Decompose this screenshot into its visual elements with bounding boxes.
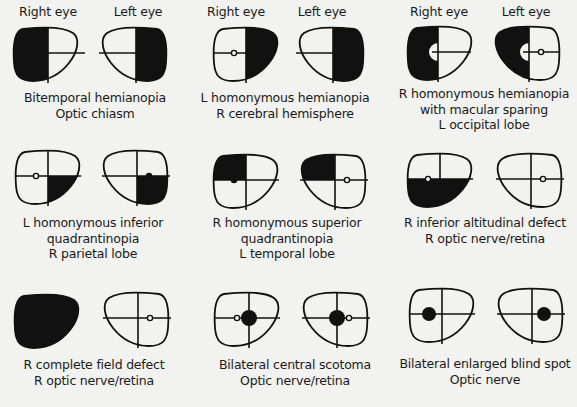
panel-r-complete-field-defect: R complete field defect R optic nerve/re…	[0, 270, 190, 407]
caption: R complete field defect R optic nerve/re…	[24, 357, 165, 388]
caption: R inferior altitudinal defect R optic ne…	[404, 215, 566, 246]
panel-r-homonymous-hemianopia-macular-sparing: Right eye Left eye R homonymous hemianop…	[380, 0, 577, 140]
caption-line-2: with macular sparing	[399, 102, 570, 118]
left-eye-field	[0, 270, 190, 355]
caption-line-1: L homonymous inferior	[23, 215, 164, 231]
caption: L homonymous hemianopia R cerebral hemis…	[201, 90, 370, 121]
caption-line-2: R optic nerve/retina	[24, 373, 165, 389]
caption: Bitemporal hemianopia Optic chiasm	[24, 90, 166, 121]
left-eye-field	[190, 140, 380, 220]
caption-line-2: quadrantinopia	[23, 231, 164, 247]
caption: R homonymous superior quadrantinopia L t…	[213, 215, 362, 262]
caption-line-2: Optic nerve	[399, 372, 570, 388]
caption: Bilateral central scotoma Optic nerve/re…	[219, 357, 371, 388]
caption-line-3: L occipital lobe	[399, 117, 570, 133]
left-eye-field	[190, 270, 380, 355]
panel-bitemporal-hemianopia: Right eye Left eye Bitemporal hemianopia…	[0, 0, 190, 135]
caption-line-3: L temporal lobe	[213, 246, 362, 262]
left-eye-field	[380, 270, 577, 355]
caption-line-3: R parietal lobe	[23, 246, 164, 262]
caption-line-1: Bilateral enlarged blind spot	[399, 356, 570, 372]
panel-l-homonymous-hemianopia: Right eye Left eye L homonymous hemianop…	[190, 0, 380, 135]
caption: Bilateral enlarged blind spot Optic nerv…	[399, 356, 570, 387]
caption-line-1: L homonymous hemianopia	[201, 90, 370, 106]
left-eye-field	[190, 0, 380, 90]
caption-line-2: quadrantinopia	[213, 231, 362, 247]
panel-r-homonymous-superior-quadrantinopia: R homonymous superior quadrantinopia L t…	[190, 140, 380, 275]
caption-line-2: R cerebral hemisphere	[201, 106, 370, 122]
caption-line-2: Optic nerve/retina	[219, 373, 371, 389]
caption-line-2: Optic chiasm	[24, 106, 166, 122]
caption: L homonymous inferior quadrantinopia R p…	[23, 215, 164, 262]
caption-line-2: R optic nerve/retina	[404, 231, 566, 247]
caption-line-1: Bitemporal hemianopia	[24, 90, 166, 106]
left-eye-field	[0, 140, 190, 220]
caption-line-1: R homonymous superior	[213, 215, 362, 231]
caption-line-1: R homonymous hemianopia	[399, 86, 570, 102]
caption: R homonymous hemianopia with macular spa…	[399, 86, 570, 133]
panel-r-inferior-altitudinal-defect: R inferior altitudinal defect R optic ne…	[380, 140, 577, 275]
caption-line-1: Bilateral central scotoma	[219, 357, 371, 373]
left-eye-field	[0, 0, 190, 90]
panel-bilateral-enlarged-blind-spot: Bilateral enlarged blind spot Optic nerv…	[380, 270, 577, 407]
left-eye-field	[380, 0, 577, 90]
panel-bilateral-central-scotoma: Bilateral central scotoma Optic nerve/re…	[190, 270, 380, 407]
panel-l-homonymous-inferior-quadrantinopia: L homonymous inferior quadrantinopia R p…	[0, 140, 190, 275]
caption-line-1: R inferior altitudinal defect	[404, 215, 566, 231]
caption-line-1: R complete field defect	[24, 357, 165, 373]
left-eye-field	[380, 140, 577, 220]
